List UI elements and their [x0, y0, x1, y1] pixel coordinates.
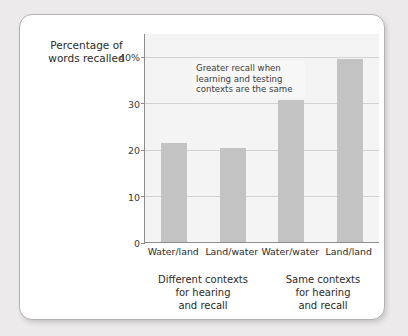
- chart-annotation: Greater recall whenlearning and testingc…: [193, 61, 305, 97]
- group-label-line-2: for hearing: [144, 286, 262, 299]
- x-axis-labels: Water/landLand/waterWater/waterLand/land: [144, 246, 379, 260]
- chart-annotation-line-2: learning and testing: [196, 74, 302, 85]
- y-tick-mark-0: [141, 243, 145, 244]
- group-label-different-contexts: Different contexts for hearing and recal…: [144, 273, 262, 312]
- gridline-40: [145, 57, 379, 58]
- y-tick-mark-30: [141, 103, 145, 104]
- x-axis-label-land-water: Land/water: [201, 246, 263, 257]
- group-label-line-1: Same contexts: [264, 273, 382, 286]
- y-axis-title-line-1: Percentage of: [34, 39, 139, 52]
- group-label-line-3: and recall: [144, 299, 262, 312]
- y-tick-mark-10: [141, 196, 145, 197]
- group-label-line-3: and recall: [264, 299, 382, 312]
- y-tick-label-30: 30: [128, 98, 140, 109]
- bar-water-land: [161, 143, 187, 242]
- y-tick-label-20: 20: [128, 145, 140, 156]
- group-labels: Different contexts for hearing and recal…: [144, 273, 388, 319]
- group-label-line-1: Different contexts: [144, 273, 262, 286]
- x-axis-label-water-land: Water/land: [142, 246, 204, 257]
- bar-water-water: [278, 100, 304, 242]
- x-axis-label-water-water: Water/water: [259, 246, 321, 257]
- y-tick-label-10: 10: [128, 191, 140, 202]
- chart-annotation-line-3: contexts are the same: [196, 84, 302, 95]
- group-label-same-contexts: Same contexts for hearing and recall: [264, 273, 382, 312]
- group-label-line-2: for hearing: [264, 286, 382, 299]
- x-axis-label-land-land: Land/land: [318, 246, 380, 257]
- plot-area: 010203040%Greater recall whenlearning an…: [144, 34, 379, 243]
- bar-land-land: [337, 59, 363, 242]
- y-tick-label-0: 0: [134, 238, 140, 249]
- y-tick-label-40: 40%: [119, 52, 140, 63]
- figure-card: Percentage of words recalled 010203040%G…: [19, 14, 385, 320]
- chart-annotation-line-1: Greater recall when: [196, 63, 302, 74]
- y-tick-mark-40: [141, 57, 145, 58]
- y-tick-mark-20: [141, 150, 145, 151]
- bar-land-water: [220, 148, 246, 242]
